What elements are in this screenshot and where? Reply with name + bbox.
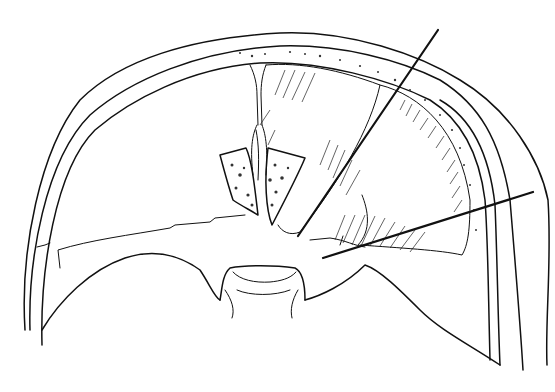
anatomical-figure xyxy=(0,0,555,392)
ethmoid-right xyxy=(266,148,305,225)
leader-line-1 xyxy=(298,30,438,236)
fossa-floor-left xyxy=(58,215,245,268)
crista-galli xyxy=(252,125,267,180)
sphenoid-left-contour xyxy=(42,254,220,330)
fossa-floor-right xyxy=(310,238,365,247)
skull-outer-table xyxy=(24,33,549,365)
leader-line-2 xyxy=(323,192,533,258)
frontal-lobe-right xyxy=(266,64,380,233)
skull-cross-section-drawing xyxy=(0,0,555,392)
ethmoid-texture xyxy=(231,164,290,207)
skull-inner-table-right xyxy=(440,100,500,365)
skull-inner-table-outer xyxy=(30,46,523,370)
sella-inner xyxy=(233,272,296,295)
falx-cerebri xyxy=(250,65,266,125)
sphenoid-right-contour xyxy=(305,265,500,365)
sphenoid-wing-right xyxy=(340,195,368,245)
